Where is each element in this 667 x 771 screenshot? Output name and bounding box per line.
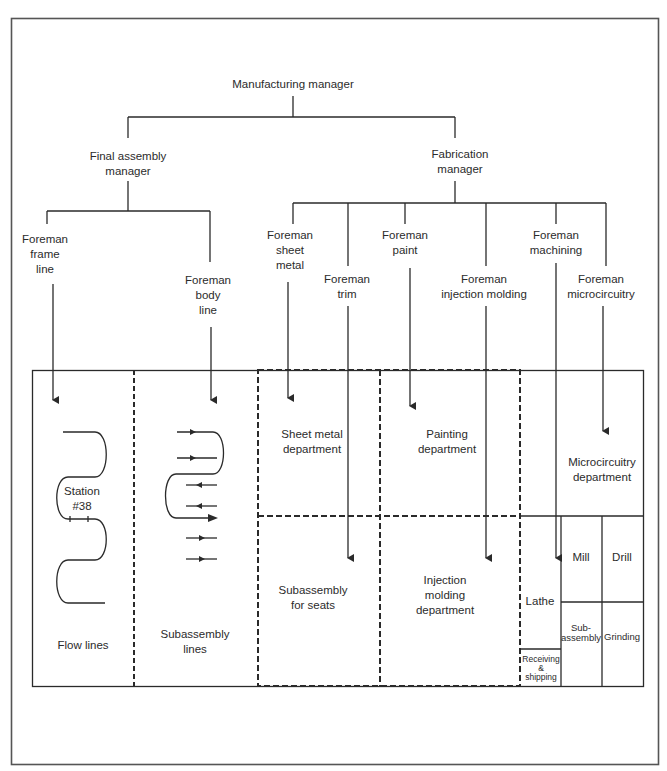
- label-line: machining: [530, 243, 582, 258]
- label-line: department: [568, 470, 636, 485]
- foreman-body-line-label: Foreman body line: [185, 273, 231, 318]
- label-line: Drill: [612, 550, 632, 565]
- injection-molding-department-label: Injection molding department: [416, 573, 474, 618]
- label-line: frame: [22, 247, 68, 262]
- flow-lines-label: Flow lines: [57, 638, 108, 653]
- receiving-shipping-label: Receiving & shipping: [522, 655, 559, 682]
- label-line: Foreman: [22, 232, 68, 247]
- label-line: Foreman: [567, 272, 635, 287]
- foreman-injection-molding-label: Foreman injection molding: [441, 272, 527, 302]
- lathe-label: Lathe: [526, 594, 555, 609]
- foreman-frame-line-label: Foreman frame line: [22, 232, 68, 277]
- label-line: Subassembly: [278, 583, 347, 598]
- label-line: lines: [160, 642, 229, 657]
- label-line: #38: [64, 499, 100, 514]
- label-line: molding: [416, 588, 474, 603]
- manufacturing-manager-label: Manufacturing manager: [232, 77, 353, 92]
- label-line: Station: [64, 484, 100, 499]
- label-line: sheet: [267, 243, 313, 258]
- sub-assembly-label: Sub- assembly: [561, 623, 601, 643]
- label-line: Microcircuitry: [568, 455, 636, 470]
- label-line: Foreman: [441, 272, 527, 287]
- microcircuitry-department-label: Microcircuitry department: [568, 455, 636, 485]
- label-line: Foreman: [530, 228, 582, 243]
- subassembly-serpentine: [166, 429, 224, 562]
- foreman-trim-label: Foreman trim: [324, 272, 370, 302]
- label-line: manager: [432, 162, 489, 177]
- label-line: department: [418, 442, 476, 457]
- label-line: department: [416, 603, 474, 618]
- foreman-microcircuitry-label: Foreman microcircuitry: [567, 272, 635, 302]
- label-line: Injection: [416, 573, 474, 588]
- subassembly-lines-label: Subassembly lines: [160, 627, 229, 657]
- subassembly-for-seats-label: Subassembly for seats: [278, 583, 347, 613]
- label-line: paint: [382, 243, 428, 258]
- label-line: body: [185, 288, 231, 303]
- mill-label: Mill: [572, 550, 589, 565]
- label-line: Mill: [572, 550, 589, 565]
- label-line: Subassembly: [160, 627, 229, 642]
- foreman-machining-label: Foreman machining: [530, 228, 582, 258]
- label-line: Manufacturing manager: [232, 77, 353, 92]
- label-line: Lathe: [526, 594, 555, 609]
- org-and-layout-diagram: [0, 0, 667, 771]
- label-line: injection molding: [441, 287, 527, 302]
- label-line: metal: [267, 258, 313, 273]
- label-line: Sheet metal: [281, 427, 342, 442]
- label-line: Final assembly: [90, 149, 167, 164]
- label-line: Foreman: [324, 272, 370, 287]
- label-line: for seats: [278, 598, 347, 613]
- label-line: Foreman: [267, 228, 313, 243]
- label-line: line: [185, 303, 231, 318]
- label-line: Painting: [418, 427, 476, 442]
- label-line: manager: [90, 164, 167, 179]
- label-line: shipping: [522, 673, 559, 682]
- label-line: trim: [324, 287, 370, 302]
- label-line: Flow lines: [57, 638, 108, 653]
- label-line: Fabrication: [432, 147, 489, 162]
- sheet-metal-department-label: Sheet metal department: [281, 427, 342, 457]
- painting-department-label: Painting department: [418, 427, 476, 457]
- label-line: assembly: [561, 633, 601, 643]
- label-line: line: [22, 262, 68, 277]
- org-connectors: [47, 96, 606, 266]
- grinding-label: Grinding: [604, 632, 640, 642]
- drill-label: Drill: [612, 550, 632, 565]
- plant-layout: [33, 370, 644, 687]
- label-line: microcircuitry: [567, 287, 635, 302]
- label-line: department: [281, 442, 342, 457]
- flow-line-serpentine: [57, 432, 107, 603]
- foreman-sheet-metal-label: Foreman sheet metal: [267, 228, 313, 273]
- station-38-label: Station #38: [64, 484, 100, 514]
- foreman-paint-label: Foreman paint: [382, 228, 428, 258]
- label-line: Foreman: [382, 228, 428, 243]
- label-line: Foreman: [185, 273, 231, 288]
- final-assembly-manager-label: Final assembly manager: [90, 149, 167, 179]
- label-line: Grinding: [604, 632, 640, 642]
- fabrication-manager-label: Fabrication manager: [432, 147, 489, 177]
